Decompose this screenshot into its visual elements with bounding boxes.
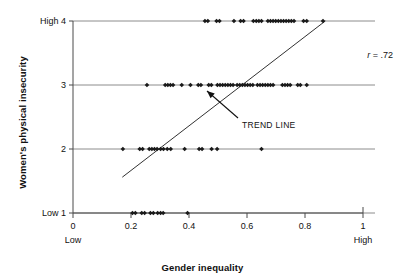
x-axis-low-label: Low (65, 235, 82, 245)
data-point (199, 83, 204, 88)
data-point (259, 19, 264, 24)
data-point (179, 83, 184, 88)
x-axis-title: Gender inequality (0, 262, 405, 273)
data-point (231, 83, 236, 88)
horizontal-rule-lines (73, 21, 375, 213)
axis-lines (73, 21, 363, 213)
data-point (200, 147, 205, 152)
data-point (145, 83, 150, 88)
data-point (206, 19, 211, 24)
data-point (188, 83, 193, 88)
data-point (304, 19, 309, 24)
data-point (288, 83, 293, 88)
data-point (133, 211, 138, 216)
data-point (217, 19, 222, 24)
data-point (232, 19, 237, 24)
data-point (168, 147, 173, 152)
data-point (142, 211, 147, 216)
correlation-symbol: r (367, 50, 370, 60)
data-point (321, 19, 326, 24)
trend-line-arrow (207, 91, 238, 118)
data-point (140, 147, 145, 152)
data-point (259, 147, 264, 152)
x-tick-label: 0.2 (125, 221, 138, 231)
data-point (161, 211, 166, 216)
x-tick-label: 0.4 (183, 221, 196, 231)
trend-line-label: TREND LINE (242, 120, 296, 130)
y-tick-label: Low 1 (0, 208, 66, 218)
x-tick-label: 1 (360, 221, 365, 231)
data-point (298, 83, 303, 88)
y-axis-title: Women's physical insecurity (17, 43, 28, 203)
data-point (121, 147, 126, 152)
x-tick-label: 0 (70, 221, 75, 231)
x-tick-label: 0.8 (299, 221, 312, 231)
data-point (209, 83, 214, 88)
trend-line (122, 21, 325, 177)
data-point (151, 211, 156, 216)
correlation-value: = .72 (373, 50, 393, 60)
y-tick-label: High 4 (0, 16, 66, 26)
x-tick-label: 0.6 (241, 221, 254, 231)
data-point (292, 19, 297, 24)
correlation-annotation: r = .72 (367, 50, 393, 60)
data-points (121, 19, 326, 216)
scatter-plot-figure: Low 123High 4 00.20.40.60.81 Low High Ge… (0, 0, 405, 275)
data-point (171, 83, 176, 88)
data-point (304, 83, 309, 88)
x-axis-high-label: High (354, 235, 373, 245)
data-point (215, 147, 220, 152)
y-tick-label: 3 (0, 80, 66, 90)
y-tick-label: 2 (0, 144, 66, 154)
data-point (209, 147, 214, 152)
data-point (271, 83, 276, 88)
data-point (182, 147, 187, 152)
tick-marks (69, 21, 363, 218)
data-point (241, 19, 246, 24)
plot-canvas (0, 0, 405, 275)
data-point (251, 83, 256, 88)
